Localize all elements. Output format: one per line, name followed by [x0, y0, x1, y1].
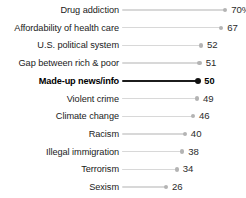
value-label: 50 [204, 73, 214, 89]
value-label: 49 [203, 91, 214, 107]
value-label: 38 [188, 144, 199, 160]
chart-row: Climate change46 [0, 108, 246, 124]
value-track [122, 62, 200, 63]
category-label: Illegal immigration [46, 144, 119, 160]
category-label: Sexism [89, 179, 119, 195]
value-label: 26 [172, 179, 183, 195]
value-dot [175, 167, 179, 171]
value-dot [223, 8, 227, 12]
chart-row: Illegal immigration38 [0, 144, 246, 160]
value-track [122, 45, 201, 46]
value-track [122, 9, 225, 10]
value-track [122, 116, 193, 117]
value-label: 52 [207, 37, 218, 53]
chart-row: Affordability of health care67 [0, 20, 246, 36]
value-dot [191, 114, 195, 118]
category-label: Racism [89, 126, 119, 142]
chart-row: Terrorism34 [0, 161, 246, 177]
value-label: 34 [183, 161, 194, 177]
category-label: Violent crime [67, 91, 119, 107]
category-label: Drug addiction [60, 2, 119, 18]
chart-row: Made-up news/info50 [0, 73, 246, 89]
value-dot [195, 78, 201, 84]
value-label: 51 [206, 55, 217, 71]
value-label: 67 [227, 20, 238, 36]
category-label: Gap between rich & poor [19, 55, 119, 71]
value-track [122, 27, 221, 28]
chart-row: Drug addiction70% [0, 2, 246, 18]
lollipop-chart: Drug addiction70%Affordability of health… [0, 0, 246, 198]
chart-row: Sexism26 [0, 179, 246, 195]
category-label: Made-up news/info [39, 73, 119, 89]
value-track [122, 80, 198, 82]
value-track [122, 151, 182, 152]
chart-row: Violent crime49 [0, 91, 246, 107]
value-label: 70% [231, 2, 246, 18]
value-label: 40 [191, 126, 202, 142]
category-label: Climate change [56, 108, 119, 124]
chart-row: U.S. political system52 [0, 37, 246, 53]
value-dot [180, 149, 184, 153]
category-label: Affordability of health care [14, 20, 119, 36]
category-label: U.S. political system [37, 37, 119, 53]
category-label: Terrorism [81, 161, 119, 177]
value-track [122, 133, 185, 134]
value-dot [197, 61, 201, 65]
value-dot [183, 132, 187, 136]
chart-row: Racism40 [0, 126, 246, 142]
value-dot [195, 96, 199, 100]
value-track [122, 98, 197, 99]
value-dot [199, 43, 203, 47]
value-track [122, 169, 177, 170]
value-track [122, 186, 166, 187]
value-dot [164, 185, 168, 189]
value-label: 46 [199, 108, 210, 124]
value-dot [219, 26, 223, 30]
chart-row: Gap between rich & poor51 [0, 55, 246, 71]
